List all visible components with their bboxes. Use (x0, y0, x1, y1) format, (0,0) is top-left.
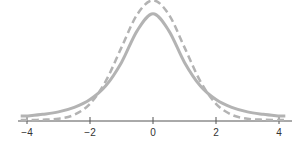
dashed-curve (21, 0, 286, 120)
x-tick-label: 2 (213, 127, 219, 138)
x-tick-label: 4 (276, 127, 282, 138)
x-tick-label: −2 (84, 127, 96, 138)
x-tick-label: −4 (21, 127, 33, 138)
x-tick-label: 0 (150, 127, 156, 138)
density-chart: −4−2024 (0, 0, 297, 148)
x-ticks: −4−2024 (21, 117, 282, 138)
solid-curve (21, 14, 286, 116)
